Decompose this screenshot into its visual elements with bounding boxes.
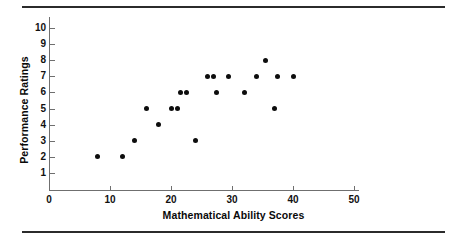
x-tick-label-40: 40	[281, 194, 305, 205]
x-tick-10	[110, 186, 111, 191]
data-point	[214, 90, 219, 95]
data-point	[156, 122, 161, 127]
y-tick-label-4: 4	[30, 119, 46, 130]
y-tick-5	[50, 109, 55, 110]
data-point	[275, 74, 280, 79]
y-tick-label-5: 5	[30, 103, 46, 114]
x-tick-label-20: 20	[159, 194, 183, 205]
data-point	[95, 154, 100, 159]
data-point	[169, 106, 174, 111]
y-tick-6	[50, 92, 55, 93]
data-point	[272, 106, 277, 111]
data-point	[291, 74, 296, 79]
data-point	[193, 138, 198, 143]
data-point	[242, 90, 247, 95]
x-axis-line	[49, 190, 359, 191]
x-tick-20	[171, 186, 172, 191]
y-tick-1	[50, 173, 55, 174]
data-point	[175, 106, 180, 111]
data-point	[205, 74, 210, 79]
y-tick-2	[50, 157, 55, 158]
y-axis-line	[49, 17, 50, 191]
data-point	[226, 74, 231, 79]
data-point	[254, 74, 259, 79]
x-tick-50	[354, 186, 355, 191]
x-tick-40	[293, 186, 294, 191]
data-point	[263, 58, 268, 63]
y-tick-3	[50, 141, 55, 142]
y-tick-label-3: 3	[30, 135, 46, 146]
figure-container: 12345678910 01020304050 Performance Rati…	[0, 0, 467, 241]
scatter-plot: 12345678910 01020304050 Performance Rati…	[0, 0, 467, 241]
data-point	[211, 74, 216, 79]
x-axis-title: Mathematical Ability Scores	[0, 209, 467, 221]
y-tick-label-1: 1	[30, 167, 46, 178]
x-tick-label-0: 0	[37, 194, 61, 205]
y-tick-label-10: 10	[30, 22, 46, 33]
x-tick-30	[232, 186, 233, 191]
y-tick-8	[50, 60, 55, 61]
y-tick-4	[50, 125, 55, 126]
y-axis-title: Performance Ratings	[18, 30, 30, 190]
x-tick-label-30: 30	[220, 194, 244, 205]
y-tick-label-8: 8	[30, 54, 46, 65]
y-tick-7	[50, 76, 55, 77]
y-tick-label-2: 2	[30, 151, 46, 162]
y-tick-9	[50, 44, 55, 45]
y-tick-label-9: 9	[30, 38, 46, 49]
data-point	[184, 90, 189, 95]
data-point	[120, 154, 125, 159]
data-point	[144, 106, 149, 111]
y-tick-label-6: 6	[30, 86, 46, 97]
data-point	[178, 90, 183, 95]
y-tick-10	[50, 28, 55, 29]
x-tick-label-50: 50	[342, 194, 366, 205]
data-point	[132, 138, 137, 143]
x-tick-label-10: 10	[98, 194, 122, 205]
y-tick-label-7: 7	[30, 70, 46, 81]
